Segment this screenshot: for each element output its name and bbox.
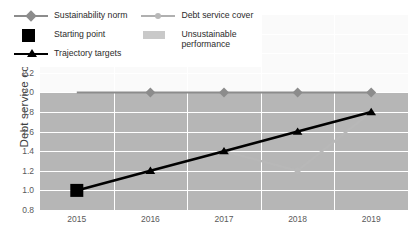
legend-item-unsustainable-performance[interactable]: Unsustainable performance (141, 29, 253, 49)
line-diamond-icon (14, 10, 48, 22)
legend-item-trajectory-targets[interactable]: Trajectory targets (14, 48, 127, 60)
marker-triangle (366, 108, 376, 115)
marker-diamond (293, 87, 303, 97)
y-axis-tick: 1.4 (0, 146, 34, 156)
marker-diamond (145, 87, 155, 97)
y-axis-tick: 2.2 (0, 68, 34, 78)
legend-column-left: Sustainability norm Starting point Traje… (14, 10, 127, 60)
chart-legend: Sustainability norm Starting point Traje… (6, 4, 261, 66)
debt-service-cover-chart: Debt service cover 0.81.01.21.41.61.82.0… (0, 0, 414, 240)
x-axis-tick: 2015 (47, 214, 107, 224)
legend-column-right: Debt service cover Unsustainable perform… (141, 10, 253, 60)
y-axis-tick: 1.0 (0, 185, 34, 195)
legend-item-starting-point[interactable]: Starting point (14, 29, 127, 41)
y-axis-tick: 1.6 (0, 127, 34, 137)
x-axis-tick: 2017 (194, 214, 254, 224)
y-axis-tick: 1.8 (0, 107, 34, 117)
x-axis-tick: 2019 (341, 214, 401, 224)
legend-label: Trajectory targets (54, 48, 121, 59)
gridline-horizontal (40, 210, 408, 211)
y-axis-tick: 2.0 (0, 87, 34, 97)
x-axis-tick: 2018 (268, 214, 328, 224)
legend-item-debt-service-cover[interactable]: Debt service cover (141, 10, 253, 22)
legend-label: Starting point (54, 29, 105, 40)
square-icon (14, 29, 48, 41)
marker-diamond (219, 87, 229, 97)
legend-label: Debt service cover (181, 10, 253, 21)
legend-item-sustainability-norm[interactable]: Sustainability norm (14, 10, 127, 22)
band-swatch-icon (141, 29, 175, 41)
legend-label: Sustainability norm (54, 10, 127, 21)
y-axis-tick: 1.2 (0, 166, 34, 176)
marker-circle (295, 168, 301, 174)
line-circle-icon (141, 10, 175, 22)
y-axis-tick: 0.8 (0, 205, 34, 215)
marker-diamond (366, 87, 376, 97)
line-triangle-icon (14, 48, 48, 60)
legend-label: Unsustainable performance (181, 29, 236, 49)
marker-square (70, 184, 83, 197)
x-axis-tick: 2016 (120, 214, 180, 224)
